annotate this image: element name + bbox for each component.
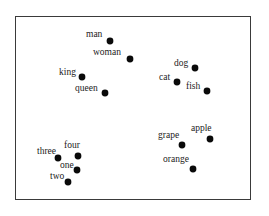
points-layer: manwomankingqueendogcatfishapplegrapeora… bbox=[37, 29, 213, 185]
point-label: fish bbox=[186, 81, 201, 91]
data-point-grape: grape bbox=[158, 130, 185, 148]
data-point-orange: orange bbox=[163, 154, 196, 172]
point-label: dog bbox=[174, 58, 189, 68]
point-marker bbox=[179, 142, 186, 149]
scatter-plot: manwomankingqueendogcatfishapplegrapeora… bbox=[0, 0, 269, 216]
data-point-dog: dog bbox=[174, 58, 198, 71]
point-marker bbox=[75, 153, 82, 160]
point-label: king bbox=[59, 67, 76, 77]
point-label: apple bbox=[191, 123, 212, 133]
point-marker bbox=[65, 179, 72, 186]
point-label: four bbox=[64, 140, 81, 150]
point-label: man bbox=[86, 29, 103, 39]
point-marker bbox=[192, 65, 199, 72]
data-point-three: three bbox=[37, 146, 61, 161]
point-marker bbox=[74, 167, 81, 174]
data-point-woman: woman bbox=[93, 47, 133, 62]
point-marker bbox=[204, 88, 211, 95]
data-point-man: man bbox=[86, 29, 113, 44]
point-marker bbox=[207, 136, 214, 143]
point-marker bbox=[190, 166, 197, 173]
point-label: three bbox=[37, 146, 56, 156]
point-label: woman bbox=[93, 47, 121, 57]
point-marker bbox=[102, 90, 109, 97]
data-point-queen: queen bbox=[75, 83, 108, 96]
point-label: two bbox=[50, 171, 65, 181]
point-label: orange bbox=[163, 154, 189, 164]
point-label: grape bbox=[158, 130, 179, 140]
data-point-four: four bbox=[64, 140, 81, 159]
point-marker bbox=[107, 38, 114, 45]
point-marker bbox=[79, 74, 86, 81]
point-marker bbox=[127, 56, 134, 63]
data-point-apple: apple bbox=[191, 123, 213, 142]
data-point-cat: cat bbox=[159, 72, 180, 85]
point-label: one bbox=[60, 160, 74, 170]
point-label: cat bbox=[159, 72, 170, 82]
data-point-king: king bbox=[59, 67, 85, 80]
point-label: queen bbox=[75, 83, 98, 93]
point-marker bbox=[174, 79, 181, 86]
data-point-two: two bbox=[50, 171, 71, 185]
data-point-fish: fish bbox=[186, 81, 210, 94]
